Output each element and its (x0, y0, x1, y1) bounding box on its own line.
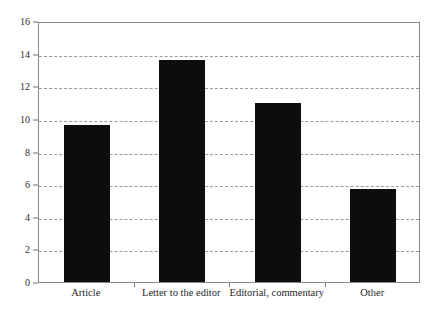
bar (350, 189, 396, 282)
y-axis-tick-label: 4 (25, 213, 30, 223)
x-axis: ArticleLetter to the editorEditorial, co… (38, 287, 420, 307)
y-axis: 0246810121416 (0, 0, 38, 317)
plot-area (38, 22, 420, 283)
x-axis-category-label: Editorial, commentary (230, 287, 324, 299)
bar (255, 103, 301, 282)
bar (159, 60, 205, 282)
x-axis-category-label: Letter to the editor (142, 287, 220, 299)
y-axis-tick-label: 8 (25, 148, 30, 158)
y-axis-tick-label: 12 (20, 82, 30, 92)
y-axis-tick-label: 14 (20, 50, 30, 60)
y-axis-tick-label: 16 (20, 17, 30, 27)
y-axis-tick-label: 6 (25, 180, 30, 190)
x-axis-category-label: Article (71, 287, 100, 299)
y-axis-tick-label: 2 (25, 245, 30, 255)
x-axis-category-label: Other (360, 287, 384, 299)
y-axis-tick-label: 10 (20, 115, 30, 125)
bar-chart: 0246810121416 ArticleLetter to the edito… (0, 0, 436, 317)
y-axis-tick-label: 0 (25, 278, 30, 288)
bar (64, 125, 110, 282)
bars-group (39, 23, 419, 282)
